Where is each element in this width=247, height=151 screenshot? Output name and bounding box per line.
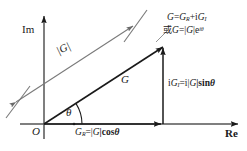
eq2-exponent: iθ: [199, 26, 204, 32]
eq2-or: 或: [163, 25, 172, 35]
angle-theta-arc: [76, 104, 82, 124]
equation-rectangular: G=GR+iGI: [167, 13, 207, 23]
equation-polar: 或G=|G|eiθ: [163, 26, 204, 36]
imag-angle: θ: [210, 78, 215, 88]
real-tail: |cos: [100, 127, 115, 137]
real-axis-label: Re: [225, 128, 238, 139]
origin-label: O: [32, 126, 40, 137]
angle-label: θ: [66, 107, 71, 118]
eq1-imag-sym: G: [198, 12, 205, 22]
figure-canvas: Im Re O |G| G θ G=GR+iGI 或G=|G|eiθ iGI=i…: [0, 0, 247, 151]
real-sym: G: [75, 127, 82, 137]
vector-label: G: [121, 74, 129, 85]
eq1-lead: G: [167, 12, 174, 22]
imag-sym: G: [171, 78, 178, 88]
imag-equals: =i|: [179, 78, 189, 88]
real-equals: =|: [85, 127, 92, 137]
real-component-label: GR=|G|cosθ: [75, 128, 119, 138]
eq1-imag-sub: I: [205, 16, 207, 22]
eq1-plus: +i: [190, 12, 198, 22]
real-angle: θ: [114, 127, 119, 137]
imaginary-component-label: iGI=i|G|sinθ: [168, 79, 215, 89]
eq2-mag: G: [186, 25, 193, 35]
imag-tail: |sin: [196, 78, 210, 88]
imaginary-axis-label: Im: [22, 24, 34, 35]
eq2-lead: G: [172, 25, 179, 35]
real-axis-tick: [73, 123, 76, 126]
vector-g-arrow: [44, 47, 163, 124]
real-mag: G: [93, 127, 100, 137]
